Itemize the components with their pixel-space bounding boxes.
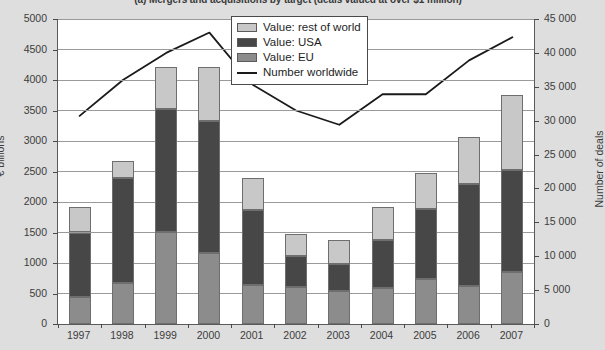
y-axis-tick (53, 50, 58, 51)
bar-segment[interactable] (372, 240, 394, 288)
x-axis-label: 2005 (403, 330, 447, 341)
x-axis-tick (58, 324, 59, 328)
x-axis-tick (361, 324, 362, 328)
y2-axis-label: 0 (544, 318, 596, 329)
x-axis-label: 2002 (273, 330, 317, 341)
bar-segment[interactable] (112, 178, 134, 283)
y-axis-tick (53, 111, 58, 112)
x-axis-label: 2007 (489, 330, 533, 341)
y2-axis-label: 35 000 (544, 81, 596, 92)
x-axis-label: 2006 (446, 330, 490, 341)
bar-segment[interactable] (501, 95, 523, 171)
x-axis-tick (404, 324, 405, 328)
y-axis-label: 1500 (0, 227, 47, 238)
legend-swatch-rest-of-world (237, 23, 257, 32)
bar-segment[interactable] (112, 161, 134, 177)
y2-axis-tick (534, 256, 539, 257)
bar-group[interactable] (415, 19, 437, 324)
bar-segment[interactable] (328, 264, 350, 291)
y2-axis-label: 30 000 (544, 115, 596, 126)
y-axis-label: 500 (0, 288, 47, 299)
y-axis-label: 2500 (0, 166, 47, 177)
y-axis-tick (53, 80, 58, 81)
x-axis-label: 1998 (100, 330, 144, 341)
bar-segment[interactable] (155, 67, 177, 110)
bar-segment[interactable] (285, 234, 307, 257)
y2-axis-label: 40 000 (544, 47, 596, 58)
bar-group[interactable] (155, 19, 177, 324)
bar-segment[interactable] (69, 297, 91, 324)
x-axis-label: 2001 (230, 330, 274, 341)
bar-segment[interactable] (242, 178, 264, 210)
bar-segment[interactable] (285, 256, 307, 287)
chart-title: (a) Mergers and acquisitions by target (… (0, 0, 596, 5)
bar-group[interactable] (372, 19, 394, 324)
x-axis-tick (491, 324, 492, 328)
bar-segment[interactable] (372, 207, 394, 240)
bar-group[interactable] (458, 19, 480, 324)
y2-axis-tick (534, 290, 539, 291)
legend-swatch-eu (237, 53, 257, 62)
y-axis-label: 2000 (0, 196, 47, 207)
x-axis-tick (318, 324, 319, 328)
x-axis-tick (447, 324, 448, 328)
y2-axis-tick (534, 53, 539, 54)
bar-segment[interactable] (328, 291, 350, 324)
y-axis-label: 1000 (0, 257, 47, 268)
bar-segment[interactable] (242, 210, 264, 285)
bar-group[interactable] (198, 19, 220, 324)
y-axis-tick (53, 263, 58, 264)
bar-segment[interactable] (458, 137, 480, 184)
x-axis-tick (188, 324, 189, 328)
bar-group[interactable] (69, 19, 91, 324)
x-axis-label: 2000 (186, 330, 230, 341)
x-axis-label: 2003 (316, 330, 360, 341)
y2-axis-label: 20 000 (544, 182, 596, 193)
y-axis-label: 4000 (0, 74, 47, 85)
bar-group[interactable] (112, 19, 134, 324)
bar-segment[interactable] (328, 240, 350, 264)
legend-label-number-worldwide: Number worldwide (263, 67, 358, 79)
bar-segment[interactable] (285, 287, 307, 324)
bar-segment[interactable] (198, 121, 220, 252)
y-axis-label: 5000 (0, 13, 47, 24)
y2-axis-tick (534, 121, 539, 122)
legend-item-usa: Value: USA (237, 35, 361, 50)
bar-segment[interactable] (242, 285, 264, 324)
bar-segment[interactable] (501, 170, 523, 272)
bar-segment[interactable] (458, 286, 480, 324)
x-axis-tick (274, 324, 275, 328)
bar-segment[interactable] (415, 209, 437, 279)
bar-segment[interactable] (198, 67, 220, 122)
bar-segment[interactable] (198, 253, 220, 324)
legend-swatch-usa (237, 38, 257, 47)
bar-segment[interactable] (372, 288, 394, 324)
bar-segment[interactable] (112, 283, 134, 324)
x-axis-tick (231, 324, 232, 328)
y-axis-label: 3500 (0, 105, 47, 116)
bar-segment[interactable] (415, 173, 437, 209)
legend-item-eu: Value: EU (237, 50, 361, 65)
y-axis-label: 3000 (0, 135, 47, 146)
bar-segment[interactable] (415, 279, 437, 324)
bar-segment[interactable] (501, 272, 523, 324)
bar-segment[interactable] (69, 233, 91, 298)
bar-group[interactable] (501, 19, 523, 324)
y-axis-tick (53, 172, 58, 173)
y-axis-tick (53, 19, 58, 20)
y2-axis-label: 15 000 (544, 216, 596, 227)
y-axis-label: 4500 (0, 44, 47, 55)
x-axis-label: 1999 (143, 330, 187, 341)
bar-segment[interactable] (155, 109, 177, 232)
y-axis-tick (53, 233, 58, 234)
legend-label-eu: Value: EU (263, 52, 314, 64)
bar-segment[interactable] (155, 232, 177, 324)
bar-segment[interactable] (458, 184, 480, 286)
bar-segment[interactable] (69, 207, 91, 233)
legend-item-number-worldwide: Number worldwide (237, 65, 361, 80)
y-axis-tick (53, 141, 58, 142)
chart-legend: Value: rest of world Value: USA Value: E… (231, 16, 368, 85)
x-axis-label: 2004 (360, 330, 404, 341)
legend-item-rest-of-world: Value: rest of world (237, 20, 361, 35)
